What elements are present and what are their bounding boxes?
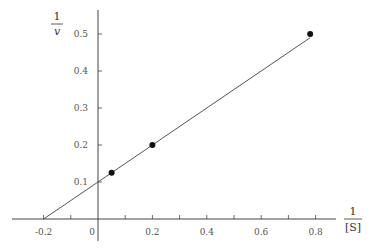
y-axis-label: 1 v (51, 10, 63, 38)
x-tick-label: -0.2 (35, 227, 52, 237)
x-axis-label-denominator: [S] (345, 221, 361, 234)
y-tick-label: 0.5 (74, 29, 89, 39)
plot-series (44, 31, 314, 219)
y-tick-label: 0.3 (74, 103, 89, 113)
x-tick-label: 0.2 (145, 227, 159, 237)
x-tick-label: 0.6 (254, 227, 269, 237)
fit-line (44, 38, 311, 219)
data-point (109, 170, 115, 176)
axes (12, 10, 336, 241)
y-tick-label: 0.4 (74, 66, 89, 76)
x-tick-label: 0.4 (200, 227, 215, 237)
y-tick-label: 0.2 (74, 140, 88, 150)
y-axis-label-denominator: v (54, 25, 61, 38)
y-tick-label: 0.1 (74, 177, 88, 187)
x-axis-label: 1 [S] (344, 205, 362, 234)
y-axis-label-numerator: 1 (54, 10, 61, 23)
data-point (307, 31, 313, 37)
x-tick-label: 0.8 (308, 227, 323, 237)
data-point (149, 142, 155, 148)
x-tick-label: 0 (89, 227, 95, 237)
tick-labels: -0.200.20.40.60.80.10.20.30.40.5 (35, 29, 323, 237)
x-axis-label-numerator: 1 (350, 205, 357, 218)
lineweaver-burk-plot: -0.200.20.40.60.80.10.20.30.40.5 1 v 1 [… (0, 0, 371, 252)
